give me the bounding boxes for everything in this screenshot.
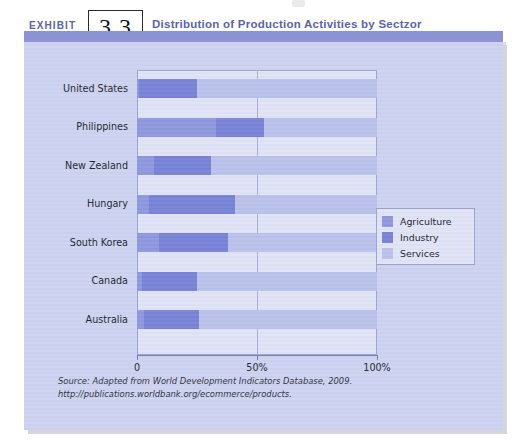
category-label: South Korea: [24, 237, 128, 248]
legend-label: Industry: [400, 232, 439, 243]
legend-item-services: Services: [382, 245, 474, 261]
x-axis-tick: [377, 355, 378, 360]
bar-segment-agriculture: [137, 195, 149, 214]
panel-shadow-right: [503, 45, 507, 430]
source-note: Source: Adapted from World Development I…: [58, 375, 488, 400]
bar-segment-agriculture: [137, 156, 154, 175]
bar-segment-industry: [142, 272, 197, 291]
exhibit-panel: United StatesPhilippinesNew ZealandHunga…: [24, 42, 503, 430]
bar-segment-services: [197, 272, 377, 291]
table-row: [137, 156, 377, 175]
bar-segment-industry: [144, 310, 199, 329]
chart-legend: AgricultureIndustryServices: [376, 208, 475, 265]
scan-artifact: [292, 0, 305, 7]
table-row: [137, 195, 377, 214]
category-label: Australia: [24, 314, 128, 325]
table-row: [137, 233, 377, 252]
table-row: [137, 310, 377, 329]
legend-item-agriculture: Agriculture: [382, 213, 474, 229]
x-axis-tick: [257, 355, 258, 360]
table-row: [137, 79, 377, 98]
category-label: United States: [24, 83, 128, 94]
table-row: [137, 118, 377, 137]
stacked-bar-chart: United StatesPhilippinesNew ZealandHunga…: [24, 42, 503, 372]
header-rule-band: [24, 31, 503, 42]
bar-segment-industry: [149, 195, 235, 214]
bar-segment-industry: [139, 79, 197, 98]
bar-segment-services: [235, 195, 377, 214]
category-label: Canada: [24, 275, 128, 286]
bar-segment-agriculture: [137, 118, 216, 137]
x-axis-tick-label: 50%: [246, 362, 267, 373]
x-axis-tick-label: 100%: [363, 362, 390, 373]
bar-segment-industry: [159, 233, 229, 252]
bar-segment-services: [211, 156, 377, 175]
exhibit-label: EXHIBIT: [29, 20, 76, 31]
legend-swatch-agriculture: [382, 216, 393, 227]
table-row: [137, 272, 377, 291]
x-axis-tick: [137, 355, 138, 360]
exhibit-page: EXHIBIT 3.3 Distribution of Production A…: [0, 0, 525, 448]
category-label: Hungary: [24, 198, 128, 209]
legend-swatch-services: [382, 248, 393, 259]
panel-shadow-bottom: [28, 430, 507, 434]
legend-label: Agriculture: [400, 216, 452, 227]
bar-segment-industry: [216, 118, 264, 137]
bar-segment-services: [228, 233, 377, 252]
bar-segment-agriculture: [137, 310, 144, 329]
legend-item-industry: Industry: [382, 229, 474, 245]
bar-segment-services: [197, 79, 377, 98]
bar-segment-industry: [154, 156, 212, 175]
category-label: Philippines: [24, 121, 128, 132]
bar-segment-services: [199, 310, 377, 329]
legend-swatch-industry: [382, 232, 393, 243]
legend-label: Services: [400, 248, 440, 259]
category-label: New Zealand: [24, 160, 128, 171]
page-title: Distribution of Production Activities by…: [152, 18, 422, 30]
scan-edge: [0, 0, 525, 9]
bar-segment-agriculture: [137, 233, 159, 252]
bar-segment-services: [264, 118, 377, 137]
x-axis-tick-label: 0: [134, 362, 140, 373]
